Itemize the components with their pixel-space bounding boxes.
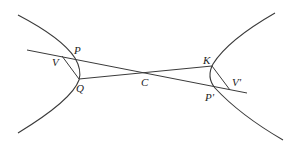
label-v: V <box>52 56 60 68</box>
label-p: P <box>73 44 81 56</box>
label-v-prime: V' <box>232 76 242 88</box>
hyperbola-diagram: P V Q C K V' P' <box>0 0 298 147</box>
label-c: C <box>141 76 149 88</box>
label-k: K <box>202 54 211 66</box>
label-p-prime: P' <box>204 91 215 103</box>
left-hyperbola-branch <box>18 15 80 133</box>
diameter-line-pp <box>27 50 247 93</box>
label-q: Q <box>76 82 84 94</box>
right-hyperbola-branch <box>210 13 283 140</box>
